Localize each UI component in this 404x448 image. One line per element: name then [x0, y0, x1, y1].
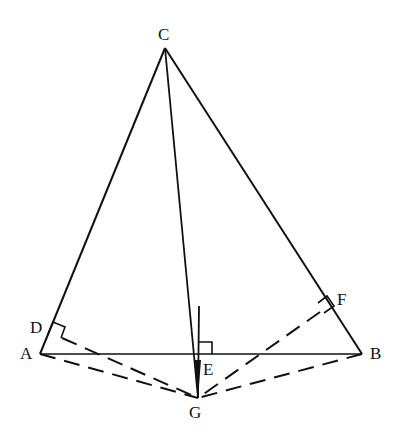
label-A: A [20, 344, 33, 363]
label-C: C [158, 25, 169, 44]
right-angle-E [199, 342, 212, 354]
geometry-diagram: C A B D E F G [0, 0, 404, 448]
label-D: D [30, 318, 42, 337]
arrowhead-G [194, 360, 201, 398]
segment-FG [198, 312, 320, 398]
label-B: B [370, 344, 381, 363]
segment-BG [198, 354, 362, 398]
segment-DG [62, 338, 198, 398]
label-F: F [337, 290, 346, 309]
label-G: G [189, 403, 201, 422]
segment-CB [165, 48, 362, 354]
segment-CA [40, 48, 165, 354]
segment-CG [165, 48, 198, 398]
label-E: E [203, 360, 213, 379]
segment-AG [40, 354, 198, 398]
